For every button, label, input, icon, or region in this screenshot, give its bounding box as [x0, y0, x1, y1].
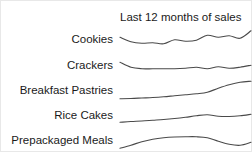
- sparkline-breakfast-pastries-svg: [120, 77, 251, 103]
- sparkline-crackers: [120, 52, 251, 78]
- sparkline-breakfast-pastries: [120, 77, 251, 103]
- sparkline-table: Last 12 months of sales Cookies Crackers…: [0, 0, 252, 152]
- sparkline-prepackaged-meals-svg: [120, 127, 251, 152]
- row-label-breakfast-pastries: Breakfast Pastries: [1, 77, 113, 103]
- table-row: Breakfast Pastries: [1, 77, 252, 103]
- sparkline-cookies: [120, 26, 251, 52]
- sparkline-cookies-path: [120, 31, 251, 44]
- table-row: Cookies: [1, 26, 252, 52]
- sparkline-crackers-svg: [120, 52, 251, 78]
- sparkline-rice-cakes: [120, 102, 251, 128]
- table-header-row: Last 12 months of sales: [1, 9, 252, 25]
- sparkline-column-header: Last 12 months of sales: [120, 9, 241, 25]
- sparkline-breakfast-pastries-path: [120, 81, 251, 99]
- sparkline-prepackaged-meals: [120, 127, 251, 152]
- sparkline-rice-cakes-svg: [120, 102, 251, 128]
- sparkline-crackers-path: [120, 62, 251, 69]
- row-label-cookies: Cookies: [1, 26, 113, 52]
- sparkline-prepackaged-meals-path: [120, 137, 251, 149]
- table-row: Prepackaged Meals: [1, 127, 252, 152]
- sparkline-rice-cakes-path: [120, 114, 251, 122]
- row-label-prepackaged-meals: Prepackaged Meals: [1, 127, 113, 152]
- table-row: Rice Cakes: [1, 102, 252, 128]
- row-label-crackers: Crackers: [1, 52, 113, 78]
- sparkline-cookies-svg: [120, 26, 251, 52]
- row-label-rice-cakes: Rice Cakes: [1, 102, 113, 128]
- table-row: Crackers: [1, 52, 252, 78]
